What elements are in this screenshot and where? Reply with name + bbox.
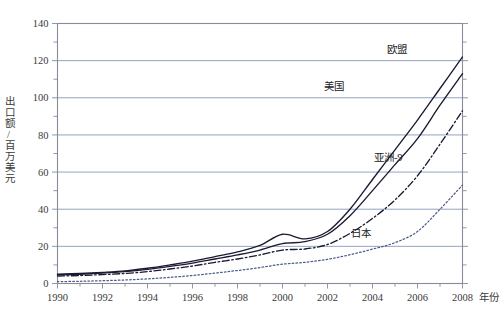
y-axis-title: 出口额/百万美元 [2, 96, 15, 184]
series-label-1: 美国 [324, 80, 344, 92]
y-tick-label: 100 [33, 92, 49, 103]
y-axis-title-wrapper: 出口额/百万美元 [2, 96, 18, 236]
y-tick-label: 40 [38, 204, 49, 215]
series-line-2 [58, 111, 463, 276]
line-chart-plot: 020406080100120140 199019921994199619982… [0, 0, 500, 320]
x-axis-unit-label: 年份 [479, 291, 500, 303]
series-line-0 [58, 57, 463, 274]
y-axis-tick-labels: 020406080100120140 [33, 18, 49, 289]
series-label-0: 欧盟 [387, 44, 408, 55]
y-tick-label: 140 [33, 18, 49, 29]
x-tick-label: 2004 [362, 292, 384, 303]
x-tick-label: 1998 [227, 292, 248, 303]
x-tick-label: 1990 [47, 292, 68, 303]
data-series-group [58, 57, 463, 282]
grid-lines [58, 24, 463, 247]
x-tick-label: 2008 [452, 292, 473, 303]
x-tick-label: 2006 [407, 292, 428, 303]
x-tick-label: 2000 [272, 292, 293, 303]
series-label-2: 亚洲-9 [374, 152, 403, 163]
y-tick-label: 60 [38, 167, 49, 178]
x-tick-label: 1996 [182, 292, 203, 303]
chart-container: 出口额/百万美元 020406080100120140 199019921994… [0, 0, 500, 320]
y-tick-label: 80 [38, 130, 49, 141]
series-line-3 [58, 185, 463, 282]
x-tick-label: 1992 [92, 292, 113, 303]
y-tick-label: 20 [38, 241, 49, 252]
x-tick-label: 1994 [137, 292, 159, 303]
x-axis-ticks [58, 284, 463, 289]
y-tick-label: 120 [33, 55, 49, 66]
x-axis-tick-labels: 1990199219941996199820002002200420062008… [47, 291, 500, 303]
series-annotations: 欧盟美国亚洲-9日本 [324, 44, 408, 239]
series-label-3: 日本 [351, 227, 372, 239]
x-tick-label: 2002 [317, 292, 338, 303]
y-tick-label: 0 [43, 278, 48, 289]
